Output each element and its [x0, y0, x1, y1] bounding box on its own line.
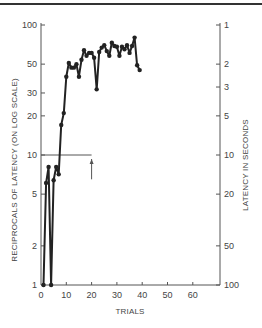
data-point: [102, 43, 106, 47]
data-point: [89, 51, 93, 55]
y-axis-title-left: RECIPROCALS OF LATENCY (ON LOG SCALE): [10, 78, 19, 262]
arrow-head-icon: [90, 159, 94, 164]
data-point: [115, 45, 119, 49]
x-tick-label: 10: [61, 290, 71, 300]
data-point: [94, 87, 98, 91]
data-point: [97, 50, 101, 54]
y-tick-label-right: 5: [224, 111, 229, 121]
data-point: [107, 54, 111, 58]
y-tick-label-right: 2: [224, 59, 229, 69]
x-tick-label: 0: [38, 290, 43, 300]
data-point: [117, 54, 121, 58]
data-point: [44, 181, 48, 185]
data-point: [41, 283, 45, 287]
y-tick-label-right: 10: [224, 150, 234, 160]
learning-curve-chart: 1251020305010012351020501000102030405060…: [0, 0, 262, 328]
x-tick-label: 40: [137, 290, 147, 300]
y-tick-label-left: 2: [32, 241, 37, 251]
x-axis-title: TRIALS: [115, 307, 144, 316]
data-point: [135, 63, 139, 67]
x-tick-label: 60: [188, 290, 198, 300]
data-point: [79, 58, 83, 62]
y-tick-label-left: 50: [27, 59, 37, 69]
data-point: [77, 75, 81, 79]
data-point: [92, 56, 96, 60]
data-point: [137, 68, 141, 72]
y-tick-label-left: 30: [27, 88, 37, 98]
data-point: [64, 75, 68, 79]
y-tick-label-right: 1: [224, 20, 229, 30]
y-tick-label-right: 20: [224, 189, 234, 199]
y-tick-label-left: 10: [27, 150, 37, 160]
y-tick-label-left: 5: [32, 189, 37, 199]
data-point: [51, 178, 55, 182]
data-point: [122, 47, 126, 51]
data-point: [62, 111, 66, 115]
data-point: [74, 62, 78, 66]
data-point: [46, 165, 50, 169]
y-tick-label-left: 100: [22, 20, 37, 30]
data-point: [125, 43, 129, 47]
y-tick-label-right: 50: [224, 241, 234, 251]
data-point: [105, 49, 109, 53]
data-point: [127, 51, 131, 55]
axes: 1251020305010012351020501000102030405060: [22, 20, 239, 300]
y-tick-label-left: 1: [32, 280, 37, 290]
x-tick-label: 20: [87, 290, 97, 300]
data-point: [132, 35, 136, 39]
data-point: [130, 44, 134, 48]
data-point: [59, 123, 63, 127]
data-point: [82, 48, 86, 52]
y-tick-label-left: 20: [27, 111, 37, 121]
x-tick-label: 50: [162, 290, 172, 300]
data-point: [54, 165, 58, 169]
data-point: [57, 172, 61, 176]
y-axis-title-right: LATENCY IN SECONDS: [241, 119, 250, 211]
data-point: [49, 283, 53, 287]
data-point: [67, 61, 71, 65]
y-tick-label-right: 3: [224, 82, 229, 92]
y-tick-label-right: 100: [224, 280, 239, 290]
x-tick-label: 30: [112, 290, 122, 300]
